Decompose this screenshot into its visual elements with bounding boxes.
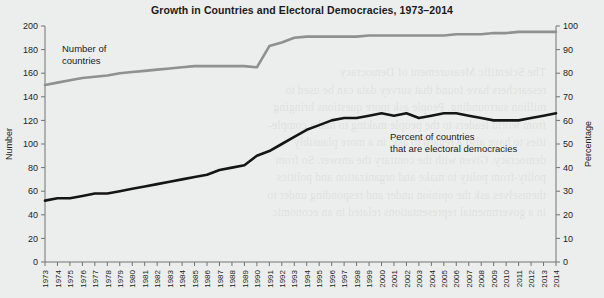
y-tick-label-right: 80: [563, 68, 573, 78]
annotation-line-2: countries: [62, 55, 101, 66]
x-tick-label: 1993: [290, 269, 299, 287]
y-tick-label-right: 90: [563, 45, 573, 55]
x-tick-label: 1986: [203, 269, 212, 287]
y-tick-label-left: 180: [23, 45, 38, 55]
series-line-number-of-countries: [45, 32, 556, 85]
y-tick-label-right: 30: [563, 186, 573, 196]
chart-annotations: Number ofcountriesPercent of countriesth…: [62, 43, 518, 154]
x-tick-label: 1982: [153, 269, 162, 287]
y-tick-label-left: 40: [28, 210, 38, 220]
y-tick-label-right: 0: [563, 257, 568, 267]
y-axis-title-left: Number: [4, 128, 14, 160]
x-tick-label: 2008: [477, 269, 486, 287]
x-tick-label: 2007: [465, 269, 474, 287]
x-tick-label: 1974: [54, 269, 63, 287]
x-tick-label: 1990: [253, 269, 262, 287]
y-tick-label-right: 10: [563, 234, 573, 244]
x-tick-label: 1987: [216, 269, 225, 287]
y-tick-label-left: 160: [23, 68, 38, 78]
y-tick-label-left: 100: [23, 139, 38, 149]
x-tick-label: 1977: [91, 269, 100, 287]
x-tick-label: 1975: [66, 269, 75, 287]
x-tick-label: 1983: [166, 269, 175, 287]
y-tick-label-right: 60: [563, 116, 573, 126]
x-tick-label: 2009: [490, 269, 499, 287]
y-tick-label-right: 50: [563, 139, 573, 149]
x-tick-label: 1999: [365, 269, 374, 287]
x-tick-label: 2014: [552, 269, 561, 287]
x-tick-label: 2013: [540, 269, 549, 287]
annotation-line-1: Number of: [62, 43, 107, 54]
y-tick-label-right: 70: [563, 92, 573, 102]
y-tick-label-left: 20: [28, 234, 38, 244]
chart-figure: Growth in Countries and Electoral Democr…: [0, 0, 604, 298]
x-tick-label: 2004: [428, 269, 437, 287]
y-tick-label-right: 100: [563, 21, 578, 31]
series-line-percent-electoral-democracies: [45, 113, 556, 200]
x-tick-label: 1979: [116, 269, 125, 287]
y-tick-label-left: 120: [23, 116, 38, 126]
annotation-line-1: Percent of countries: [390, 131, 475, 142]
x-tick-label: 2001: [390, 269, 399, 287]
x-tick-label: 1981: [141, 269, 150, 287]
x-tick-label: 2002: [403, 269, 412, 287]
x-tick-label: 1996: [328, 269, 337, 287]
annotation-line-2: that are electoral democracies: [390, 143, 518, 154]
x-tick-label: 1984: [178, 269, 187, 287]
annotation-percent-electoral-democracies: Percent of countriesthat are electoral d…: [390, 131, 518, 154]
x-tick-label: 1976: [79, 269, 88, 287]
x-tick-label: 1994: [303, 269, 312, 287]
x-tick-label: 2003: [415, 269, 424, 287]
x-tick-label: 1978: [104, 269, 113, 287]
x-tick-label: 1989: [241, 269, 250, 287]
y-tick-label-left: 80: [28, 163, 38, 173]
x-tick-label: 1998: [353, 269, 362, 287]
x-tick-label: 2006: [452, 269, 461, 287]
x-tick-label: 1991: [266, 269, 275, 287]
x-tick-label: 2005: [440, 269, 449, 287]
x-tick-label: 1988: [228, 269, 237, 287]
y-tick-label-left: 140: [23, 92, 38, 102]
chart-series-group: [45, 32, 556, 201]
x-tick-label: 2011: [515, 269, 524, 287]
x-tick-label: 2000: [378, 269, 387, 287]
annotation-number-of-countries: Number ofcountries: [62, 43, 107, 66]
x-tick-label: 2010: [502, 269, 511, 287]
x-tick-label: 1995: [315, 269, 324, 287]
y-tick-label-left: 60: [28, 186, 38, 196]
y-tick-label-left: 0: [33, 257, 38, 267]
y-tick-label-right: 40: [563, 163, 573, 173]
chart-plot-area: 0204060801001201401601802000102030405060…: [0, 0, 604, 298]
y-tick-label-left: 200: [23, 21, 38, 31]
x-tick-label: 1980: [128, 269, 137, 287]
x-tick-label: 1973: [41, 269, 50, 287]
x-tick-label: 1992: [278, 269, 287, 287]
y-axis-title-right: Percentage: [583, 121, 593, 167]
y-tick-label-right: 20: [563, 210, 573, 220]
x-tick-label: 2012: [527, 269, 536, 287]
x-tick-label: 1997: [340, 269, 349, 287]
x-tick-label: 1985: [191, 269, 200, 287]
